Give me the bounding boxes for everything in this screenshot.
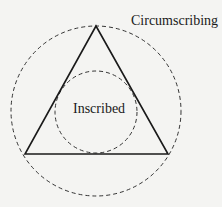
inscribed-label: Inscribed	[73, 101, 125, 117]
triangle	[25, 26, 168, 154]
circumscribing-label: Circumscribing	[131, 13, 218, 29]
